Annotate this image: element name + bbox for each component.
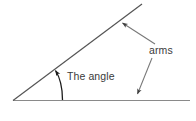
diagonal-arm-line	[13, 4, 142, 101]
leader-line-to-horizontal-arm	[138, 58, 153, 94]
diagram-canvas	[0, 0, 196, 121]
the-angle-label: The angle	[67, 70, 115, 82]
leader-line-to-diagonal-arm	[123, 23, 156, 44]
angle-diagram-figure: The angle arms	[0, 0, 196, 121]
angle-arc-arrow	[56, 71, 63, 101]
arms-label: arms	[149, 44, 173, 56]
